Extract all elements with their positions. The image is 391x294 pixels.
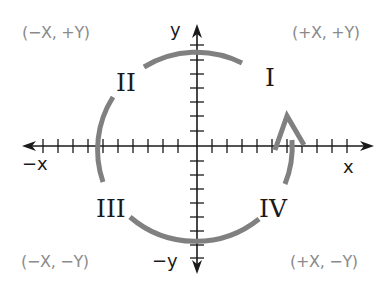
y-negative-label: −y xyxy=(152,250,178,271)
quadrant-sign-label-4: (+X, −Y) xyxy=(290,252,358,271)
x-positive-label: x xyxy=(343,156,354,177)
quadrant-numeral-2: II xyxy=(116,68,136,97)
arc-left xyxy=(98,97,113,182)
rotation-arrowhead-icon xyxy=(275,116,304,150)
x-axis xyxy=(22,139,374,153)
y-axis xyxy=(190,24,204,274)
arc-bottom xyxy=(130,217,259,241)
quadrant-numeral-3: III xyxy=(96,194,126,223)
quadrant-sign-label-3: (−X, −Y) xyxy=(21,252,89,271)
quadrant-numeral-1: I xyxy=(265,63,275,92)
y-positive-label: y xyxy=(170,19,181,40)
quadrant-diagram: y −x x −y I II III IV (+X, +Y) (−X, +Y) … xyxy=(0,0,391,294)
quadrant-sign-label-1: (+X, +Y) xyxy=(292,23,360,42)
quadrant-sign-label-2: (−X, +Y) xyxy=(22,23,90,42)
quadrant-numeral-4: IV xyxy=(259,194,287,223)
x-negative-label: −x xyxy=(22,153,48,174)
axes-and-arcs xyxy=(0,0,391,294)
